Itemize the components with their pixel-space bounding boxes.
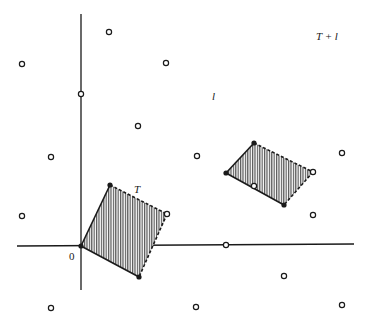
lattice-point (19, 213, 24, 218)
lattice-point (310, 212, 315, 217)
lattice-point (339, 150, 344, 155)
closed-vertex-dot (223, 170, 228, 175)
lattice-point (281, 273, 286, 278)
closed-vertex-dot (136, 274, 141, 279)
lattice-point (19, 61, 24, 66)
closed-vertex-dot (281, 202, 286, 207)
hatched-fill (226, 143, 313, 205)
open-vertex-dot (310, 169, 315, 174)
lattice-point (163, 60, 168, 65)
lattice-point (339, 302, 344, 307)
lattice-point (223, 242, 228, 247)
x-axis (17, 244, 354, 246)
region-t-plus-l-label: T + l (316, 31, 338, 42)
axes (17, 14, 354, 290)
lattice-point (78, 91, 83, 96)
lattice-point (251, 183, 256, 188)
closed-vertex-dot (107, 182, 112, 187)
lattice-point (135, 123, 140, 128)
lattice-point (48, 154, 53, 159)
lattice-point (193, 304, 198, 309)
region-t (78, 182, 169, 279)
closed-vertex-dot (78, 243, 83, 248)
region-t-plus-l (223, 140, 315, 207)
lattice-point (194, 153, 199, 158)
regions (78, 140, 315, 279)
region-t-label: T (134, 184, 140, 195)
open-vertex-dot (164, 211, 169, 216)
lattice-point (106, 29, 111, 34)
vector-l-label: l (212, 91, 215, 102)
lattice-diagram (0, 0, 367, 329)
origin-label: 0 (69, 251, 75, 262)
lattice-point (48, 305, 53, 310)
hatched-fill (81, 185, 167, 277)
closed-vertex-dot (251, 140, 256, 145)
